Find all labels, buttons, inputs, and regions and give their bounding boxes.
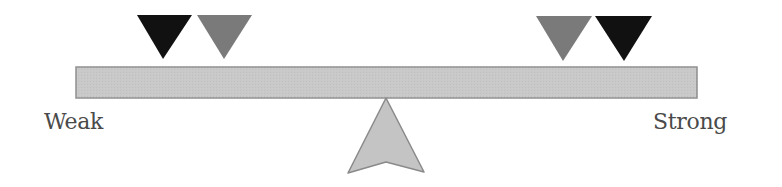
marker-group	[137, 15, 652, 61]
marker-right-gray-triangle-icon	[536, 16, 592, 61]
marker-right-dark-triangle-icon	[595, 16, 652, 61]
weak-label: Weak	[44, 111, 103, 133]
marker-left-dark-triangle-icon	[137, 15, 192, 59]
balance-beam-texture	[76, 67, 697, 98]
strong-label: Strong	[653, 111, 727, 133]
marker-left-gray-triangle-icon	[197, 15, 252, 59]
fulcrum-arrow-icon	[348, 98, 424, 173]
balance-scale-graphic	[0, 0, 782, 187]
balance-diagram: Weak Strong	[0, 0, 782, 187]
